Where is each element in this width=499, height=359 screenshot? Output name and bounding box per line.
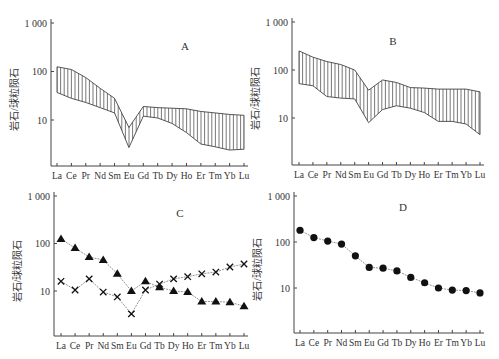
y-tick-label: 100 [32, 66, 47, 77]
x-tick-label: Dy [405, 338, 417, 348]
triangle-marker [141, 277, 150, 285]
circle-marker [476, 289, 483, 296]
x-tick-label: Lu [475, 170, 486, 180]
upper-bound-line [299, 51, 480, 92]
y-axis-label: 岩石/球粒陨石 [251, 238, 263, 301]
triangle-marker [197, 297, 206, 305]
y-tick-label: 100 [35, 238, 50, 249]
x-tick-label: Nd [335, 170, 347, 180]
upper-bound-line [57, 67, 244, 128]
circle-marker [421, 279, 428, 286]
circle-marker [324, 237, 331, 244]
panel-title: B [389, 35, 396, 47]
x-tick-label: Ho [182, 341, 194, 351]
x-tick-label: Sm [349, 338, 362, 348]
cross-marker [241, 261, 247, 267]
x-tick-label: Yb [460, 170, 472, 180]
x-tick-label: Lu [475, 338, 486, 348]
lower-bound-line [299, 84, 480, 135]
y-tick-label: 10 [280, 283, 290, 294]
x-tick-label: Nd [336, 338, 348, 348]
x-tick-label: Gd [137, 171, 149, 181]
y-tick-label: 10 [40, 286, 50, 297]
y-tick-label: 1 000 [266, 17, 289, 28]
circle-marker [463, 287, 470, 294]
triangle-marker [183, 288, 192, 296]
circle-marker [352, 252, 359, 259]
x-tick-label: Dy [168, 341, 180, 351]
x-tick-label: Sm [348, 170, 361, 180]
x-tick-label: Ce [66, 171, 77, 181]
cross-marker [58, 278, 64, 284]
x-tick-label: Ho [419, 338, 431, 348]
x-tick-label: Sm [108, 171, 121, 181]
x-tick-label: Eu [364, 338, 375, 348]
circle-marker [366, 264, 373, 271]
ree-pattern-figure: 1 00010010LaCePrNdSmEuGdTbDyHoErTmYbLu岩石… [0, 0, 499, 359]
figure-canvas: 1 00010010LaCePrNdSmEuGdTbDyHoErTmYbLu岩石… [0, 0, 499, 359]
circle-marker [407, 274, 414, 281]
cross-marker [86, 276, 92, 282]
cross-marker [100, 289, 106, 295]
panel-title: C [176, 207, 183, 219]
x-tick-label: Gd [377, 170, 389, 180]
x-tick-label: Tb [392, 338, 403, 348]
x-tick-label: La [294, 170, 305, 180]
y-tick-label: 10 [37, 115, 47, 126]
y-axis-label: 岩石/球粒陨石 [249, 67, 261, 130]
panel-c: 1 00010010LaCePrNdSmEuGdTbDyHoErTmYbLu岩石… [11, 191, 250, 352]
cross-marker [227, 264, 233, 270]
x-tick-label: Tm [209, 341, 223, 351]
x-tick-label: Gd [140, 341, 152, 351]
triangle-marker [225, 298, 234, 306]
circle-marker [393, 267, 400, 274]
circle-marker [310, 234, 317, 241]
panel-title: D [399, 201, 407, 213]
circle-marker [449, 287, 456, 294]
y-axis-label: 岩石/球粒陨石 [8, 68, 20, 131]
lower-bound-line [57, 92, 244, 150]
x-tick-label: Er [434, 338, 444, 348]
cross-marker [72, 287, 78, 293]
panel-a: 1 00010010LaCePrNdSmEuGdTbDyHoErTmYbLu岩石… [8, 18, 250, 182]
panel-title: A [181, 40, 189, 52]
x-tick-label: Eu [126, 341, 137, 351]
y-tick-label: 1 000 [25, 18, 48, 29]
x-tick-label: Lu [239, 171, 250, 181]
triangle-marker [113, 269, 122, 277]
x-tick-label: Pr [323, 338, 332, 348]
cross-marker [142, 287, 148, 293]
triangle-marker [71, 244, 80, 252]
cross-marker [128, 311, 134, 317]
x-tick-label: Tb [152, 171, 163, 181]
x-tick-label: Eu [124, 171, 135, 181]
panel-d: 1 00010010LaCePrNdSmEuGdTbDyHoErTmYbLu岩石… [251, 191, 486, 349]
x-tick-label: Pr [323, 170, 332, 180]
y-tick-label: 10 [278, 113, 288, 124]
y-tick-label: 1 000 [268, 191, 291, 202]
x-tick-label: Er [434, 170, 444, 180]
x-tick-label: Nd [97, 341, 109, 351]
cross-marker [199, 271, 205, 277]
panel-b: 1 00010010LaCePrNdSmEuGdTbDyHoErTmYbLu岩石… [249, 17, 486, 181]
x-tick-label: Yb [460, 338, 472, 348]
x-tick-label: Dy [405, 170, 417, 180]
x-tick-label: Er [197, 341, 207, 351]
x-tick-label: Er [196, 171, 206, 181]
x-tick-label: Yb [224, 171, 236, 181]
x-tick-label: Tm [209, 171, 223, 181]
hatch-fill [57, 23, 244, 166]
x-tick-label: Eu [363, 170, 374, 180]
x-tick-label: Yb [224, 341, 236, 351]
circle-marker [435, 284, 442, 291]
x-tick-label: Tb [154, 341, 165, 351]
x-tick-label: La [295, 338, 306, 348]
x-tick-label: Ho [181, 171, 193, 181]
x-tick-label: Lu [239, 341, 250, 351]
triangle-marker [85, 252, 94, 260]
x-tick-label: La [56, 341, 67, 351]
x-tick-label: Ce [309, 338, 320, 348]
x-tick-label: Dy [166, 171, 178, 181]
cross-marker [114, 294, 120, 300]
circle-marker [296, 227, 303, 234]
